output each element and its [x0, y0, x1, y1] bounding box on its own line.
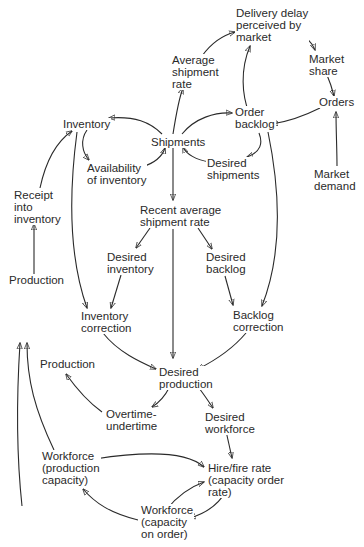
edge-order-backlog-to-delivery-delay [243, 46, 250, 113]
edge-desired-production-to-overtime [152, 388, 169, 407]
edge-workforce-production-to-hire-fire [95, 454, 204, 467]
edge-market-share-to-orders [327, 75, 334, 96]
edge-workforce-on-order-to-workforce-production [83, 489, 138, 520]
node-workforce-production-capacity: Workforce (production capacity) [41, 450, 101, 486]
edge-order-backlog-to-backlog-correction [262, 132, 277, 306]
node-receipt-into-inventory: Receipt into inventory [13, 189, 62, 225]
edge-shipments-to-average-shipment-rate [173, 88, 183, 134]
node-delivery-delay: Delivery delay perceived by market [235, 7, 309, 43]
edge-inventory-correction-to-desired-production [103, 333, 156, 369]
node-shipments: Shipments [150, 136, 206, 148]
node-recent-average-shipment-rate: Recent average shipment rate [139, 204, 222, 228]
edge-desired-workforce-to-hire-fire [226, 431, 232, 458]
node-desired-inventory: Desired inventory [106, 251, 155, 275]
node-desired-shipments: Desired shipments [206, 157, 260, 181]
node-production-mid: Production [39, 358, 96, 370]
edge-receipt-to-inventory [40, 131, 72, 188]
node-average-shipment-rate: Average shipment rate [171, 54, 220, 90]
node-market-share: Market share [308, 53, 345, 77]
node-backlog-correction: Backlog correction [232, 309, 285, 333]
node-desired-workforce: Desired workforce [204, 411, 256, 435]
node-overtime-undertime: Overtime- undertime [105, 408, 158, 432]
node-production-top: Production [8, 274, 65, 286]
node-orders: Orders [318, 96, 355, 108]
node-availability-of-inventory: Availability of inventory [86, 162, 147, 186]
edge-order-backlog-to-desired-shipments [247, 133, 261, 157]
node-workforce-capacity-on-order: Workforce (capacity on order) [140, 504, 194, 540]
edge-inventory-to-inventory-correction [72, 132, 87, 308]
node-desired-backlog: Desired backlog [205, 251, 247, 275]
edge-shipments-to-order-backlog [182, 113, 232, 134]
edge-workforce-production-to-production-2 [18, 343, 22, 506]
node-order-backlog: Order backlog [234, 106, 276, 130]
causal-loop-diagram: Delivery delay perceived by market Avera… [0, 0, 364, 547]
edge-desired-backlog-to-backlog-correction [225, 276, 233, 305]
edge-market-demand-to-orders [336, 112, 337, 166]
node-inventory-correction: Inventory correction [80, 310, 133, 334]
edge-overtime-to-production [66, 374, 102, 412]
edge-recent-average-to-desired-backlog [198, 228, 212, 249]
edge-desired-production-to-desired-workforce [199, 388, 213, 408]
node-desired-production: Desired production [158, 366, 214, 390]
edge-inventory-to-availability [83, 130, 89, 160]
edge-average-shipment-rate-to-delivery-delay [202, 32, 235, 56]
edge-orders-to-order-backlog [272, 108, 320, 124]
edge-recent-average-to-desired-inventory [136, 228, 150, 248]
node-market-demand: Market demand [313, 168, 357, 192]
node-hire-fire-rate: Hire/fire rate (capacity order rate) [207, 462, 285, 498]
edge-shipments-to-inventory [109, 118, 162, 134]
node-inventory: Inventory [62, 118, 111, 130]
edge-desired-inventory-to-inventory-correction [111, 275, 121, 308]
edge-backlog-correction-to-desired-production [198, 333, 246, 369]
